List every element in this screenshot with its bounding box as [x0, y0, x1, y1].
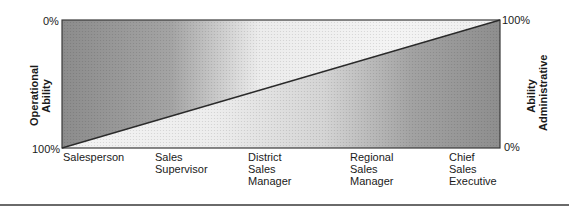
position-chief-sales-executive: Chief Sales Executive	[449, 151, 497, 187]
administrative-ability-label: Ability Administrative	[525, 61, 549, 131]
operational-ability-label: Operational Ability	[28, 66, 52, 126]
left-bottom-tick: 100%	[32, 143, 60, 155]
right-top-tick: 100%	[502, 14, 530, 26]
ability-diagram: 0% 100% 100% 0% Operational Ability Abil…	[0, 0, 569, 207]
left-top-tick: 0%	[43, 15, 59, 27]
position-district-sales-manager: District Sales Manager	[248, 151, 291, 187]
bottom-divider	[0, 204, 569, 206]
position-sales-supervisor: Sales Supervisor	[155, 151, 208, 175]
position-salesperson: Salesperson	[63, 151, 124, 163]
right-bottom-tick: 0%	[504, 141, 520, 153]
position-regional-sales-manager: Regional Sales Manager	[350, 151, 393, 187]
